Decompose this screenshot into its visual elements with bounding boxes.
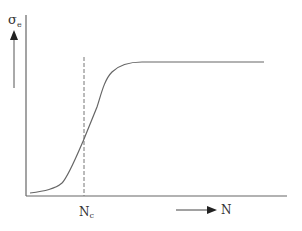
sigmoid-curve: [30, 62, 264, 193]
critical-n-label: Nc: [79, 205, 95, 220]
y-label-sub: e: [17, 20, 22, 29]
y-axis-label: σe: [8, 12, 22, 29]
x-axis-label: N: [221, 203, 232, 217]
x-direction-arrow-icon: [176, 206, 217, 214]
nc-label-sub: c: [90, 211, 95, 220]
y-label-base: σ: [8, 12, 17, 27]
sigmoid-chart: σe Nc N: [0, 0, 302, 231]
nc-label-base: N: [79, 205, 90, 219]
y-direction-arrow-icon: [10, 30, 18, 88]
